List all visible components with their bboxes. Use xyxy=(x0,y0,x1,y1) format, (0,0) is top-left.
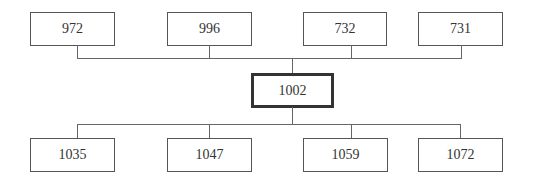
connector xyxy=(209,124,210,138)
node-1072: 1072 xyxy=(418,138,503,172)
node-1035: 1035 xyxy=(30,138,115,172)
top-bus-line xyxy=(77,58,462,59)
bottom-bus-line xyxy=(77,124,461,125)
connector xyxy=(292,107,293,124)
node-972: 972 xyxy=(30,12,115,46)
node-label: 1072 xyxy=(447,147,475,163)
node-1002-center: 1002 xyxy=(251,73,334,108)
connector xyxy=(351,124,352,138)
node-label: 732 xyxy=(335,21,356,37)
node-label: 972 xyxy=(62,21,83,37)
node-label: 1059 xyxy=(332,147,360,163)
node-1047: 1047 xyxy=(167,138,252,172)
connector xyxy=(351,45,352,59)
node-731: 731 xyxy=(418,12,503,46)
node-label: 731 xyxy=(450,21,471,37)
node-label: 1047 xyxy=(196,147,224,163)
connector xyxy=(460,124,461,138)
node-label: 996 xyxy=(199,21,220,37)
connector xyxy=(209,45,210,59)
node-996: 996 xyxy=(167,12,252,46)
connector xyxy=(461,45,462,59)
connector xyxy=(292,58,293,74)
node-label: 1035 xyxy=(59,147,87,163)
connector xyxy=(77,45,78,59)
node-732: 732 xyxy=(303,12,387,46)
node-label: 1002 xyxy=(279,83,307,99)
node-1059: 1059 xyxy=(303,138,388,172)
connector xyxy=(77,124,78,138)
